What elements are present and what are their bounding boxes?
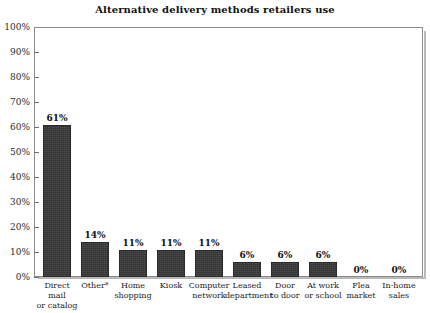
y-axis-tick-label: 30% [0,197,30,207]
chart-screenshot: Alternative delivery methods retailers u… [0,0,430,313]
y-axis-tick-label: 20% [0,222,30,232]
y-axis-tick-label: 100% [0,22,30,32]
bar-slot[interactable]: 6% [266,27,304,277]
bar-slot[interactable]: 0% [380,27,418,277]
bar-slot[interactable]: 0% [342,27,380,277]
x-axis-category-line: or catalog [35,301,79,311]
bar-slot[interactable]: 11% [190,27,228,277]
x-axis-category-line: shopping [111,291,155,301]
bar-value-label: 11% [114,238,152,248]
y-axis-tick-label: 60% [0,122,30,132]
bar-slot[interactable]: 6% [228,27,266,277]
chart-title: Alternative delivery methods retailers u… [0,4,430,15]
bar[interactable] [195,250,223,278]
bar-slot[interactable]: 61% [38,27,76,277]
bar-series: 61%14%11%11%11%6%6%6%0%0% [34,27,423,277]
bar-slot[interactable]: 11% [114,27,152,277]
y-axis-labels: 0%10%20%30%40%50%60%70%80%90%100% [0,27,30,277]
bar[interactable] [119,250,147,278]
bar-value-label: 0% [380,265,418,275]
x-axis-labels: Direct mailor catalogOther*HomeshoppingK… [34,281,423,311]
bar[interactable] [309,262,337,277]
bar-slot[interactable]: 11% [152,27,190,277]
bar-value-label: 6% [304,250,342,260]
bar-slot[interactable]: 6% [304,27,342,277]
bar-value-label: 0% [342,265,380,275]
bar[interactable] [81,242,109,277]
bar-value-label: 61% [38,113,76,123]
y-axis-tick-label: 50% [0,147,30,157]
x-axis-category-line: sales [377,291,421,301]
y-axis-tick-mark [34,277,39,278]
bar-slot[interactable]: 14% [76,27,114,277]
bar-value-label: 6% [266,250,304,260]
x-axis-category-line: In-home [377,281,421,291]
bar-value-label: 11% [190,238,228,248]
bar[interactable] [157,250,185,278]
bar-value-label: 6% [228,250,266,260]
y-axis-tick-label: 40% [0,172,30,182]
y-axis-tick-label: 10% [0,247,30,257]
x-axis-category-label: In-homesales [377,281,421,301]
y-axis-tick-label: 0% [0,272,30,282]
bar-value-label: 14% [76,230,114,240]
plot-frame-shadow-right [424,31,426,279]
bar[interactable] [43,125,71,278]
bar[interactable] [233,262,261,277]
plot-frame-shadow-bottom [38,277,426,279]
y-axis-tick-label: 90% [0,47,30,57]
y-axis-tick-label: 70% [0,97,30,107]
bar[interactable] [271,262,299,277]
y-axis-tick-label: 80% [0,72,30,82]
bar-value-label: 11% [152,238,190,248]
